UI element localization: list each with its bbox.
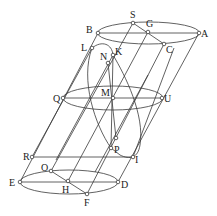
point-D: [116, 180, 120, 184]
point-M: [111, 96, 115, 100]
cylinder-section-diagram: SGBACLKNQMUPRIOEHDF: [0, 0, 217, 216]
label-M: M: [101, 87, 110, 98]
label-E: E: [9, 177, 15, 188]
label-G: G: [146, 18, 153, 29]
label-C: C: [166, 44, 173, 55]
point-F: [85, 192, 89, 196]
segment-N-P2: [108, 63, 116, 138]
point-G: [146, 30, 150, 34]
point-L: [90, 46, 94, 50]
label-Q: Q: [53, 93, 61, 104]
label-F: F: [84, 197, 90, 208]
label-P: P: [114, 144, 120, 155]
label-S: S: [130, 9, 136, 20]
generator-line-1: [56, 55, 113, 160]
point-Q: [61, 96, 65, 100]
label-H: H: [62, 184, 69, 195]
label-N: N: [100, 51, 107, 62]
generator-line-0: [32, 48, 92, 157]
point-R: [30, 155, 34, 159]
labels-group: SGBACLKNQMUPRIOEHDF: [9, 9, 209, 208]
point-P2: [114, 136, 118, 140]
point-B: [96, 31, 100, 35]
label-D: D: [121, 179, 128, 190]
label-U: U: [164, 93, 172, 104]
point-P: [109, 146, 113, 150]
point-H: [66, 179, 70, 183]
label-I: I: [135, 154, 138, 165]
label-A: A: [201, 28, 209, 39]
point-S: [131, 21, 135, 25]
label-L: L: [81, 42, 87, 53]
label-R: R: [23, 151, 30, 162]
point-E: [18, 180, 22, 184]
label-O: O: [41, 162, 48, 173]
label-B: B: [86, 24, 93, 35]
label-K: K: [115, 46, 123, 57]
point-O: [49, 169, 53, 173]
